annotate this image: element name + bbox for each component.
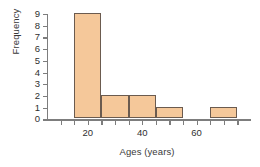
x-tick-mark-minor (183, 120, 184, 125)
y-tick-label: 5 (35, 56, 40, 66)
x-tick-mark-minor (237, 120, 238, 125)
x-tick-mark-major (88, 120, 89, 125)
histogram-figure: Frequency 0123456789 204060 Ages (years) (0, 0, 260, 167)
histogram-bar (129, 95, 156, 118)
x-tick-mark-minor (210, 120, 211, 125)
y-axis-label: Frequency (10, 0, 21, 68)
y-tick-mark (43, 108, 48, 109)
x-tick-mark-minor (101, 120, 102, 125)
y-tick-label: 6 (35, 44, 40, 54)
x-tick-mark-minor (224, 120, 225, 125)
y-tick-label: 4 (35, 68, 40, 78)
y-tick-mark (43, 73, 48, 74)
x-tick-mark-minor (115, 120, 116, 125)
y-tick-label: 3 (35, 80, 40, 90)
y-tick-label: 8 (35, 21, 40, 31)
histogram-bar (74, 13, 101, 118)
x-tick-mark-minor (129, 120, 130, 125)
x-tick-mark-minor (156, 120, 157, 125)
x-axis-line (47, 119, 251, 121)
x-tick-mark-minor (74, 120, 75, 125)
y-tick-label: 1 (35, 103, 40, 113)
y-tick-mark (43, 26, 48, 27)
y-tick-mark (43, 119, 48, 120)
y-tick-label: 9 (35, 9, 40, 19)
x-tick-mark-major (142, 120, 143, 125)
x-axis-label: Ages (years) (85, 146, 174, 157)
y-tick-mark (43, 49, 48, 50)
x-tick-label: 20 (83, 127, 94, 138)
x-tick-mark-minor (61, 120, 62, 125)
y-tick-mark (43, 61, 48, 62)
y-tick-mark (43, 96, 48, 97)
histogram-bar (101, 95, 128, 118)
x-tick-label: 60 (191, 127, 202, 138)
plot-area: 0123456789 204060 (47, 14, 251, 120)
y-tick-label: 7 (35, 33, 40, 43)
histogram-bar (210, 107, 237, 119)
y-axis-line (47, 14, 48, 120)
x-axis-label-wrap: Ages (years) (0, 146, 260, 157)
x-tick-label: 40 (137, 127, 148, 138)
y-tick-label: 0 (35, 115, 40, 125)
y-tick-mark (43, 14, 48, 15)
y-tick-mark (43, 84, 48, 85)
histogram-bar (156, 107, 183, 119)
y-tick-mark (43, 37, 48, 38)
y-tick-label: 2 (35, 91, 40, 101)
x-tick-mark-major (197, 120, 198, 125)
x-tick-mark-minor (169, 120, 170, 125)
